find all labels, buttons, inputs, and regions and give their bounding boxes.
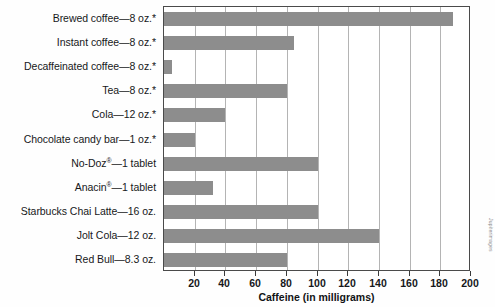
x-axis-tick-label: 100: [308, 277, 326, 289]
x-axis-tick: [347, 271, 348, 276]
x-axis-tick-label: 140: [369, 277, 387, 289]
x-axis-tick: [409, 271, 410, 276]
x-axis-tick: [378, 271, 379, 276]
bar: [164, 205, 318, 219]
category-label: No-Doz®—1 tablet: [71, 157, 156, 169]
gridline: [379, 7, 380, 270]
x-axis-tick-label: 160: [400, 277, 418, 289]
category-label: Anacin®—1 tablet: [75, 181, 156, 193]
bar: [164, 157, 318, 171]
bar: [164, 36, 294, 50]
x-axis-tick-label: 180: [430, 277, 448, 289]
x-axis-tick-label: 200: [461, 277, 479, 289]
x-axis-tick: [439, 271, 440, 276]
bar: [164, 133, 195, 147]
bar: [164, 60, 172, 74]
x-axis-tick: [224, 271, 225, 276]
category-label: Tea—8 oz.*: [102, 84, 156, 96]
plot-area: [163, 6, 470, 271]
x-axis-tick: [286, 271, 287, 276]
category-label: Decaffeinated coffee—8 oz.*: [24, 60, 156, 72]
bar: [164, 181, 213, 195]
gridline: [440, 7, 441, 270]
x-axis-tick-label: 60: [249, 277, 261, 289]
category-label: Jolt Cola—12 oz.: [77, 229, 156, 241]
bar: [164, 108, 225, 122]
bar: [164, 12, 453, 26]
caffeine-bar-chart: Brewed coffee—8 oz.*Instant coffee—8 oz.…: [0, 0, 495, 307]
x-axis-tick-label: 20: [188, 277, 200, 289]
category-label: Instant coffee—8 oz.*: [57, 36, 156, 48]
bar: [164, 229, 379, 243]
x-axis-title: Caffeine (in milligrams): [163, 291, 470, 303]
category-label: Red Bull—8.3 oz.: [75, 253, 156, 265]
x-axis-tick-label: 120: [338, 277, 356, 289]
gridline: [410, 7, 411, 270]
category-label: Cola—12 oz.*: [92, 108, 156, 120]
category-label: Chocolate candy bar—1 oz.*: [24, 133, 156, 145]
category-label: Starbucks Chai Latte—16 oz.: [21, 205, 156, 217]
photo-credit: Jupiterimages: [488, 218, 494, 252]
bar: [164, 84, 287, 98]
x-axis-tick: [255, 271, 256, 276]
x-axis-tick-label: 40: [218, 277, 230, 289]
x-axis-tick-label: 80: [280, 277, 292, 289]
category-axis-labels: Brewed coffee—8 oz.*Instant coffee—8 oz.…: [0, 6, 160, 271]
x-axis-tick: [317, 271, 318, 276]
category-label: Brewed coffee—8 oz.*: [53, 12, 156, 24]
bar: [164, 253, 287, 267]
x-axis-tick: [194, 271, 195, 276]
x-axis-tick: [470, 271, 471, 276]
